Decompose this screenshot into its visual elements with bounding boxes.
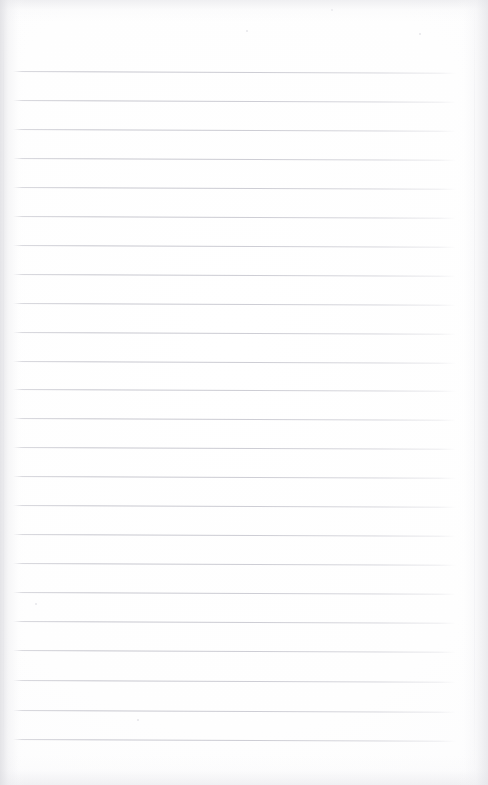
paper-surface xyxy=(0,0,488,785)
scanned-page xyxy=(0,0,488,785)
